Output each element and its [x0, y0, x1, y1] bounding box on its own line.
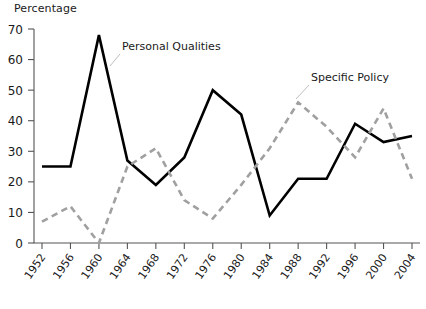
x-tick-label: 2000 [363, 251, 390, 281]
x-tick-label: 1996 [335, 251, 362, 281]
chart-container: Percentage 01020304050607019521956196019… [0, 0, 426, 309]
line-chart-plot: 0102030405060701952195619601964196819721… [0, 0, 426, 309]
x-tick-label: 1976 [193, 251, 220, 281]
y-tick-label: 30 [8, 145, 23, 159]
series-annotation-2: Specific Policy [311, 71, 389, 84]
x-tick-label: 1992 [306, 251, 333, 281]
x-tick-label: 1964 [107, 251, 134, 281]
x-tick-label: 2004 [392, 251, 419, 281]
series-annotation-1: Personal Qualities [122, 40, 221, 53]
x-tick-label: 1960 [79, 251, 106, 281]
y-tick-label: 70 [8, 23, 23, 37]
y-tick-label: 20 [8, 175, 23, 189]
x-tick-label: 1972 [164, 251, 191, 281]
x-tick-label: 1984 [249, 251, 276, 281]
annotation-leader-personal-qualities [110, 54, 120, 66]
y-tick-label: 50 [8, 84, 23, 98]
y-tick-label: 0 [15, 237, 23, 251]
x-tick-label: 1988 [278, 251, 305, 281]
x-tick-label: 1952 [22, 251, 49, 281]
x-tick-label: 1980 [221, 251, 248, 281]
y-tick-label: 10 [8, 206, 23, 220]
x-tick-label: 1956 [50, 251, 77, 281]
series-line-1 [42, 35, 412, 215]
x-tick-label: 1968 [136, 251, 163, 281]
y-tick-label: 40 [8, 114, 23, 128]
chart-axes [34, 29, 420, 243]
y-tick-label: 60 [8, 53, 23, 67]
annotation-leader-specific-policy [296, 85, 309, 99]
